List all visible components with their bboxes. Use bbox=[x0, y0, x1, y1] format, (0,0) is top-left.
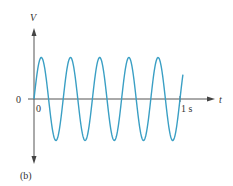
x-axis-label: t bbox=[219, 94, 222, 105]
t-axis-arrow-icon bbox=[207, 97, 215, 102]
y-axis-label: V bbox=[30, 12, 38, 23]
sine-wave-diagram: V t 0 0 1 s (b) bbox=[0, 0, 233, 186]
end-tick-label: 1 s bbox=[181, 103, 193, 114]
v-axis-down-arrow-icon bbox=[32, 156, 37, 164]
panel-label: (b) bbox=[20, 170, 32, 182]
origin-y-label: 0 bbox=[16, 94, 21, 105]
v-axis-up-arrow-icon bbox=[32, 28, 37, 36]
origin-x-label: 0 bbox=[36, 103, 41, 114]
